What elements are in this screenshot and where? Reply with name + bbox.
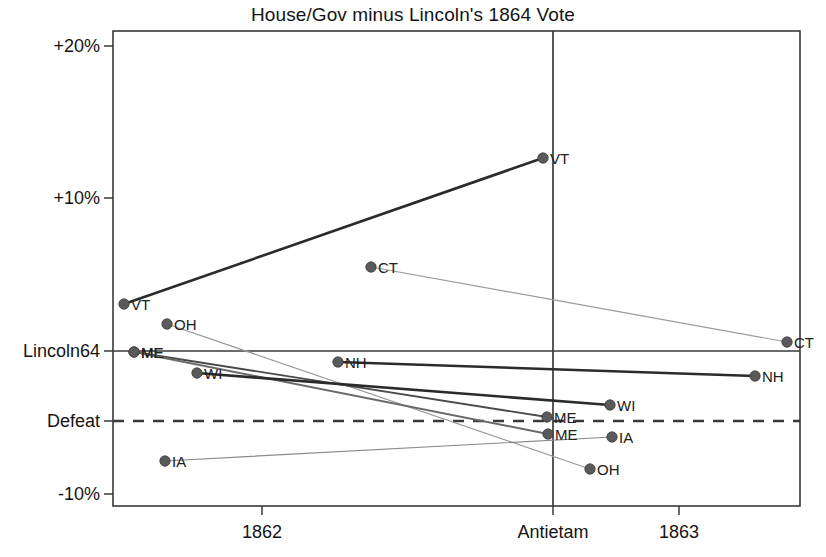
point-label-ME2-0: ME [141, 344, 164, 361]
point-label-VT-0: VT [131, 296, 150, 313]
marker-OH-0 [162, 319, 172, 329]
point-label-ME2-1: ME [555, 426, 578, 443]
marker-OH-1 [585, 464, 595, 474]
marker-VT-0 [119, 299, 129, 309]
series-markers [119, 153, 792, 474]
marker-ME-1 [542, 412, 552, 422]
series-line-VT [124, 158, 543, 304]
marker-WI-1 [605, 400, 615, 410]
series-line-OH [167, 324, 590, 469]
point-label-WI-1: WI [617, 397, 635, 414]
marker-WI-0 [192, 368, 202, 378]
point-label-NH-1: NH [762, 368, 784, 385]
series-line-CT [371, 267, 787, 342]
y-tick-label-0: +20% [53, 36, 100, 57]
series-line-WI [197, 373, 610, 405]
point-label-CT-1: CT [794, 334, 814, 351]
point-label-OH-1: OH [597, 461, 620, 478]
point-label-IA-1: IA [619, 429, 633, 446]
marker-NH-0 [333, 357, 343, 367]
series-line-NH [338, 362, 755, 376]
point-label-OH-0: OH [174, 316, 197, 333]
point-label-CT-0: CT [378, 259, 398, 276]
marker-ME2-0 [129, 347, 139, 357]
x-tick-label-2: 1863 [659, 522, 699, 543]
plot-area [0, 0, 826, 557]
x-tick-label-1: Antietam [517, 522, 588, 543]
y-tick-label-1: +10% [53, 188, 100, 209]
marker-ME2-1 [543, 429, 553, 439]
marker-IA-0 [160, 456, 170, 466]
x-tick-label-0: 1862 [242, 522, 282, 543]
marker-NH-1 [750, 371, 760, 381]
series-line-IA [165, 437, 612, 461]
point-label-VT-1: VT [550, 150, 569, 167]
point-label-ME-1: ME [554, 409, 577, 426]
point-label-NH-0: NH [345, 354, 367, 371]
y-tick-label-2: Lincoln64 [23, 341, 100, 362]
point-label-WI-0: WI [204, 365, 222, 382]
series-lines [124, 158, 787, 469]
plot-frame [113, 31, 800, 506]
chart-container: House/Gov minus Lincoln's 1864 Vote +20%… [0, 0, 826, 557]
marker-CT-1 [782, 337, 792, 347]
point-label-IA-0: IA [172, 453, 186, 470]
marker-CT-0 [366, 262, 376, 272]
marker-VT-1 [538, 153, 548, 163]
plot-border [113, 31, 800, 506]
y-tick-label-4: -10% [58, 484, 100, 505]
marker-IA-1 [607, 432, 617, 442]
reference-lines [113, 31, 800, 506]
y-tick-label-3: Defeat [47, 411, 100, 432]
